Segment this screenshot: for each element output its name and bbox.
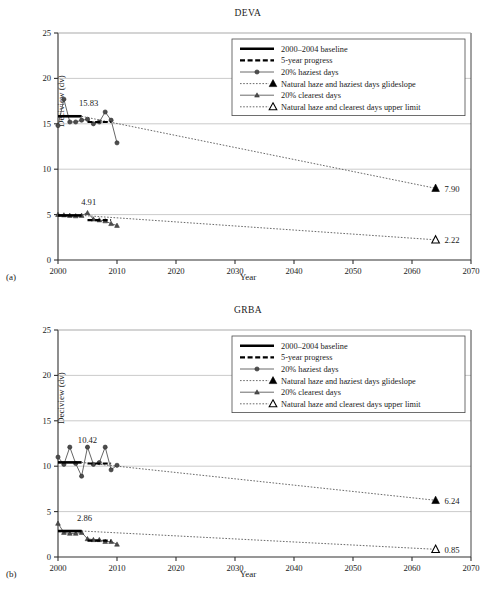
y-tick-label-15: 15 — [42, 119, 51, 129]
x-tick-label-2010: 2010 — [108, 563, 125, 573]
panel-deva: DEVA Deciview (dv) Year (a) 051015202520… — [0, 0, 496, 297]
annotation-haziest-days-baseline: 15.83 — [79, 98, 98, 108]
legend-label-5: Natural haze and clearest days upper lim… — [281, 103, 421, 112]
y-tick-label-20: 20 — [42, 370, 51, 380]
x-tick-label-2060: 2060 — [403, 563, 420, 573]
legend-label-5: Natural haze and clearest days upper lim… — [281, 400, 421, 409]
annotation-haziest-days-glideslope-endpoint: 7.90 — [444, 184, 459, 194]
glideslope-line-haziest — [82, 116, 436, 188]
legend-label-0: 2000–2004 baseline — [281, 342, 348, 351]
annotation-haziest-days-baseline: 10.42 — [78, 435, 97, 445]
legend-label-2: 20% haziest days — [281, 68, 339, 77]
legend: 2000–2004 baseline5-year progress20% haz… — [232, 336, 465, 413]
haziest-days-marker-2009 — [109, 468, 113, 472]
annotation-haziest-days-glideslope-endpoint: 6.24 — [444, 496, 460, 506]
y-tick-label-5: 5 — [47, 507, 51, 517]
legend: 2000–2004 baseline5-year progress20% haz… — [232, 39, 465, 116]
x-tick-label-2030: 2030 — [226, 563, 243, 573]
haziest-days-marker-2002 — [68, 120, 72, 124]
haziest-days-marker-2008 — [103, 445, 107, 449]
y-tick-label-0: 0 — [47, 255, 51, 265]
x-tick-label-2040: 2040 — [285, 563, 302, 573]
haziest-days-marker-2004 — [80, 474, 84, 478]
haziest-days-marker-2005 — [85, 445, 89, 449]
haziest-days-marker-2001 — [62, 97, 66, 101]
clearest-days-marker-2009 — [109, 221, 114, 225]
clearest-days-marker-2010 — [115, 542, 120, 546]
haziest-days-marker-2010 — [115, 463, 119, 467]
legend-label-0: 2000–2004 baseline — [281, 45, 348, 54]
y-tick-label-25: 25 — [42, 325, 51, 335]
panel-grba: GRBA Deciview (dv) Year (b) 051015202520… — [0, 297, 496, 594]
annotation-clearest-days-limit-endpoint: 2.22 — [444, 235, 459, 245]
clearest-days-marker-2000 — [56, 521, 61, 525]
y-tick-label-25: 25 — [42, 28, 51, 38]
y-tick-label-15: 15 — [42, 416, 51, 426]
x-tick-label-2020: 2020 — [167, 563, 184, 573]
haziest-days-marker-2008 — [103, 110, 107, 114]
haziest-days-marker-2004 — [80, 118, 84, 122]
legend-label-1: 5-year progress — [281, 56, 332, 65]
y-tick-label-10: 10 — [42, 461, 51, 471]
x-tick-label-2070: 2070 — [462, 563, 479, 573]
x-tick-label-2050: 2050 — [344, 563, 361, 573]
plot-content: 0510152025200020102020203020402050206020… — [42, 325, 479, 573]
x-tick-label-2040: 2040 — [285, 266, 302, 276]
legend-marker-haziest-circle — [255, 367, 259, 371]
plot-area-deva: 0510152025200020102020203020402050206020… — [0, 0, 496, 297]
legend-label-2: 20% haziest days — [281, 365, 339, 374]
x-tick-label-2010: 2010 — [108, 266, 125, 276]
x-tick-label-2030: 2030 — [226, 266, 243, 276]
haziest-days-marker-2002 — [68, 445, 72, 449]
annotation-clearest-days-limit-endpoint: 0.85 — [444, 545, 459, 555]
x-tick-label-2020: 2020 — [167, 266, 184, 276]
glideslope-line-haziest — [82, 462, 436, 500]
x-tick-label-2050: 2050 — [344, 266, 361, 276]
haziest-days-marker-2003 — [74, 120, 78, 124]
annotation-clearest-days-baseline: 4.91 — [81, 197, 96, 207]
y-tick-label-10: 10 — [42, 164, 51, 174]
glideslope-line-clearest — [82, 215, 436, 239]
legend-label-1: 5-year progress — [281, 353, 332, 362]
legend-label-3: Natural haze and haziest days glideslope — [281, 80, 416, 89]
annotation-clearest-days-baseline: 2.86 — [77, 513, 93, 523]
haziest-days-marker-2000 — [56, 124, 60, 128]
plot-area-grba: 0510152025200020102020203020402050206020… — [0, 297, 496, 594]
haziest-days-marker-2010 — [115, 141, 119, 145]
haziest-days-marker-2005 — [85, 117, 89, 121]
glideslope-line-clearest — [82, 531, 436, 549]
y-tick-label-5: 5 — [47, 210, 51, 220]
plot-content: 0510152025200020102020203020402050206020… — [42, 28, 479, 276]
x-tick-label-2000: 2000 — [49, 563, 66, 573]
legend-label-4: 20% clearest days — [281, 388, 341, 397]
clearest-days-marker-2005 — [85, 210, 90, 214]
x-tick-label-2000: 2000 — [49, 266, 66, 276]
legend-label-3: Natural haze and haziest days glideslope — [281, 377, 416, 386]
figure-two-panel-deciview-trends: DEVA Deciview (dv) Year (a) 051015202520… — [0, 0, 496, 594]
legend-marker-haziest-circle — [255, 70, 259, 74]
clearest-limit-endpoint-triangle — [432, 545, 440, 552]
x-tick-label-2060: 2060 — [403, 266, 420, 276]
haziest-days-marker-2000 — [56, 455, 60, 459]
x-tick-label-2070: 2070 — [462, 266, 479, 276]
y-tick-label-0: 0 — [47, 552, 51, 562]
legend-label-4: 20% clearest days — [281, 91, 341, 100]
y-tick-label-20: 20 — [42, 73, 51, 83]
